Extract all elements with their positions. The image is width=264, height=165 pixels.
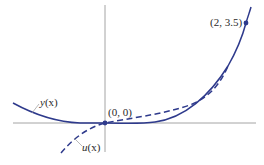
u-curve-arg: (x) <box>88 141 101 153</box>
y-label-leader <box>32 104 39 113</box>
y-curve-label: y(x) <box>40 97 58 108</box>
point-label: (2, 3.5) <box>210 17 242 28</box>
y-curve-arg: (x) <box>45 96 58 108</box>
point-2-3.5 <box>244 21 249 26</box>
u-curve-label: u(x) <box>82 142 100 153</box>
origin-label: (0, 0) <box>108 107 132 118</box>
origin-point <box>103 121 108 126</box>
curve-u-dashed <box>61 66 228 153</box>
u-label-leader <box>74 138 82 146</box>
